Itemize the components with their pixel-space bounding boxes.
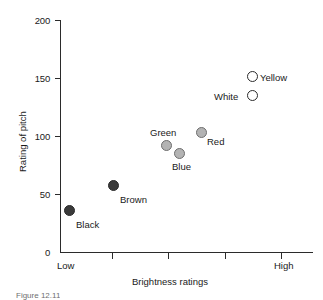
data-point-label-black: Black (76, 220, 99, 230)
data-point-brown (108, 180, 119, 191)
y-tick-50 (55, 194, 61, 195)
y-axis-title: Rating of pitch (18, 111, 28, 172)
x-tick-label-high: High (274, 261, 294, 271)
x-tick-3 (225, 253, 226, 259)
y-tick-100 (55, 136, 61, 137)
x-tick-4 (281, 253, 282, 259)
y-tick-label-200: 200 (24, 16, 50, 26)
data-point-red (196, 127, 207, 138)
data-point-blue (174, 148, 185, 159)
data-point-label-green: Green (150, 128, 176, 138)
x-axis-title: Brightness ratings (105, 277, 235, 287)
data-point-black (64, 205, 75, 216)
data-point-label-red: Red (207, 137, 224, 147)
x-tick-2 (168, 253, 169, 259)
y-tick-label-50: 50 (24, 190, 50, 200)
data-point-label-brown: Brown (120, 195, 147, 205)
y-tick-label-0: 0 (24, 248, 50, 258)
figure-caption: Figure 12.11 (16, 292, 60, 300)
x-axis-line (60, 252, 313, 253)
data-point-label-white: White (214, 92, 238, 102)
data-point-yellow (247, 71, 258, 82)
x-tick-1 (112, 253, 113, 259)
y-tick-150 (55, 78, 61, 79)
data-point-label-yellow: Yellow (260, 73, 287, 83)
y-tick-200 (55, 20, 61, 21)
x-tick-label-low: Low (57, 261, 74, 271)
y-tick-label-150: 150 (24, 74, 50, 84)
data-point-green (161, 140, 172, 151)
data-point-white (247, 90, 258, 101)
data-point-label-blue: Blue (172, 162, 191, 172)
